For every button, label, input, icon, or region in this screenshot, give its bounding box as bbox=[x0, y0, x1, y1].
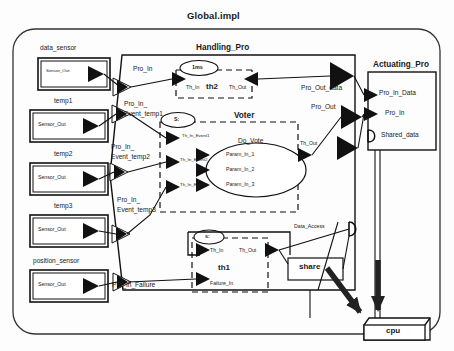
sensor-title-temp2: temp2 bbox=[54, 151, 72, 158]
th1-dispatch-annotation: s: bbox=[205, 234, 210, 240]
thread-th1 bbox=[188, 230, 290, 292]
th2-port-th_out: Th_Out bbox=[229, 85, 246, 90]
handling-pro-port-pro_in_event_temp3-line2: Event_temp3 bbox=[117, 207, 156, 214]
sensor-port-data_sensor: Sensor_Out bbox=[46, 69, 69, 74]
sensor-port-temp2: Sensor_Out bbox=[38, 175, 66, 180]
th2-port-th_in: Th_In bbox=[186, 85, 199, 90]
handling-pro-port-pro_in_event_temp1-line2: Event_temp1 bbox=[124, 111, 163, 118]
sensor-port-position_sensor: Sensor_Out bbox=[38, 282, 66, 287]
sensor-port-temp3: Sensor_Out bbox=[38, 227, 66, 232]
diagram-canvas: Global.impl bbox=[0, 0, 454, 351]
sensor-title-temp1: temp1 bbox=[54, 98, 72, 105]
do-vote-subprogram-name: Do_Vote bbox=[238, 138, 263, 145]
voter-dispatch-annotation: S: bbox=[174, 117, 179, 123]
voter-port-th_out: Th_Out bbox=[300, 141, 317, 146]
handling-pro-port-pro_in_event_temp3-line1: Pro_In_ bbox=[117, 197, 140, 204]
sensor-port-temp1: Sensor_Out bbox=[38, 122, 66, 127]
handling-pro-port-pro_in_failure: Pro_In_Failure bbox=[112, 282, 155, 289]
actuating-pro-port-shared_data: Shared_data bbox=[381, 132, 419, 139]
thread-th2 bbox=[176, 61, 252, 99]
actuating-pro-port-pro_in: Pro_In bbox=[385, 110, 404, 117]
th1-port-th_in: Th_In bbox=[210, 248, 223, 253]
do-vote-param-in-1: Param_In_1 bbox=[226, 152, 254, 157]
th2-name: th2 bbox=[206, 83, 218, 91]
voter-port-th_in_event3: Th_In_Event3 bbox=[180, 183, 207, 188]
actuating-pro-title: Actuating_Pro bbox=[373, 61, 429, 70]
sensor-title-temp3: temp3 bbox=[54, 203, 72, 210]
th1-port-icons bbox=[196, 243, 279, 286]
handling-pro-port-pro_in: Pro_In bbox=[133, 66, 152, 73]
voter-port-th_in_event2: Th_In_Event2 bbox=[180, 158, 207, 163]
handling-pro-port-pro_in_event_temp1-line1: Pro_In_ bbox=[124, 101, 147, 108]
handling-pro-port-pro_in_event_temp2-line2: Event_temp2 bbox=[111, 154, 150, 161]
handling-pro-port-pro_out_data: Pro_Out_data bbox=[301, 85, 342, 92]
data-access-label: Data_Access bbox=[294, 224, 325, 229]
sensor-title-position_sensor: position_sensor bbox=[33, 258, 79, 265]
handling-pro-port-pro_in_event_temp2-line1: Pro_In_ bbox=[111, 144, 134, 151]
th1-port-failure_in: Failure_In bbox=[210, 281, 233, 286]
cpu-label: cpu bbox=[386, 327, 400, 335]
do-vote-param-in-3: Param_In_3 bbox=[226, 182, 254, 187]
share-box-label: share bbox=[299, 263, 320, 271]
actuating-pro-port-pro_in_data: Pro_In_Data bbox=[379, 90, 416, 97]
sensor-title-data_sensor: data_sensor bbox=[40, 45, 76, 52]
diagram-graphics bbox=[0, 0, 454, 351]
do-vote-param-in-2: Param_In_2 bbox=[226, 167, 254, 172]
th2-period-annotation: 1ms bbox=[192, 65, 203, 71]
th1-port-th_out: Th_Out bbox=[239, 248, 256, 253]
handling-pro-title: Handling_Pro bbox=[196, 44, 249, 53]
voter-port-th_in_event1: Th_In_Event1 bbox=[182, 134, 209, 139]
th1-name: th1 bbox=[218, 264, 230, 272]
actuating-pro-port-icons bbox=[364, 88, 378, 142]
handling-pro-port-pro_out: Pro_Out bbox=[311, 104, 336, 111]
voter-name: Voter bbox=[234, 112, 254, 121]
